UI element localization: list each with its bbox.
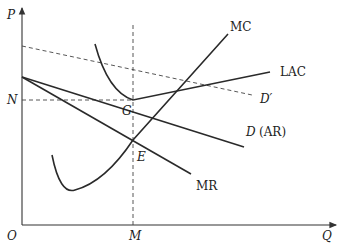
demand-ar-curve xyxy=(22,77,244,147)
point-g-label: G xyxy=(122,104,132,118)
lac-label: LAC xyxy=(280,65,306,79)
d-prime-label: D′ xyxy=(259,92,273,106)
y-axis-label: P xyxy=(6,8,16,22)
mc-label: MC xyxy=(230,20,251,34)
lac-curve xyxy=(95,44,270,100)
d-ar-label-d: D xyxy=(245,125,256,139)
point-m-label: M xyxy=(128,229,142,243)
mc-curve xyxy=(52,34,228,191)
diagram-canvas: P Q O N M G E MC LAC D′ D (AR) MR xyxy=(0,0,342,247)
mr-curve xyxy=(22,77,191,174)
x-axis-label: Q xyxy=(322,229,332,243)
mr-label: MR xyxy=(196,179,218,193)
point-e-label: E xyxy=(136,150,146,164)
origin-label: O xyxy=(7,229,17,243)
point-n-label: N xyxy=(6,93,18,107)
d-ar-label-ar: (AR) xyxy=(259,125,286,139)
